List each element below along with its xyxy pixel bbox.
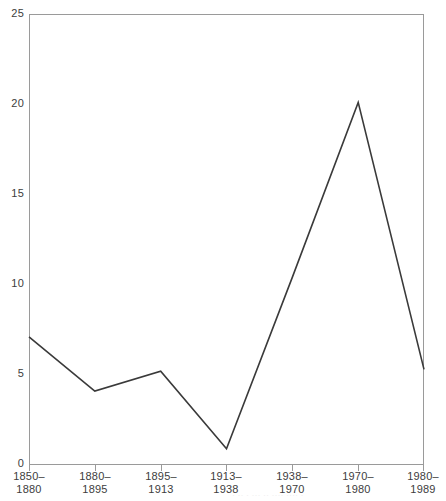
x-tick-label-1970-1980-top: 1970– xyxy=(323,470,393,483)
x-tick-label-1850-1880-bottom: 1880 xyxy=(0,483,64,496)
y-tick-label-0: 0 xyxy=(0,458,24,469)
plot-canvas xyxy=(29,14,424,465)
x-tick-label-1895-1913: 1895– 1913 xyxy=(126,470,196,496)
x-tick-label-1880-1895: 1880– 1895 xyxy=(60,470,130,496)
x-tick-label-1850-1880: 1850– 1880 xyxy=(0,470,64,496)
y-tick-label-5: 5 xyxy=(0,368,24,379)
series-line-primary xyxy=(29,102,424,448)
x-tick-label-1880-1895-top: 1880– xyxy=(60,470,130,483)
x-tick-label-1850-1880-top: 1850– xyxy=(0,470,64,483)
y-tick-label-10: 10 xyxy=(0,278,24,289)
line-chart-figure: 25 20 15 10 5 0 1850– 1880 1880– 1895 18… xyxy=(0,0,446,501)
x-tick-label-1980-1989-top: 1980– xyxy=(388,470,446,483)
cropped-caption-remnant: · ·· · ··· ·· ···· ···· · xyxy=(232,491,446,500)
y-tick-label-20: 20 xyxy=(0,98,24,109)
y-tick-label-15: 15 xyxy=(0,188,24,199)
x-tick-label-1895-1913-top: 1895– xyxy=(126,470,196,483)
x-tick-label-1913-1938-top: 1913– xyxy=(191,470,261,483)
x-tick-label-1938-1970-top: 1938– xyxy=(257,470,327,483)
y-tick-label-25: 25 xyxy=(0,8,24,19)
x-tick-label-1880-1895-bottom: 1895 xyxy=(60,483,130,496)
y-axis: 25 20 15 10 5 0 xyxy=(0,0,24,501)
x-tick-label-1895-1913-bottom: 1913 xyxy=(126,483,196,496)
